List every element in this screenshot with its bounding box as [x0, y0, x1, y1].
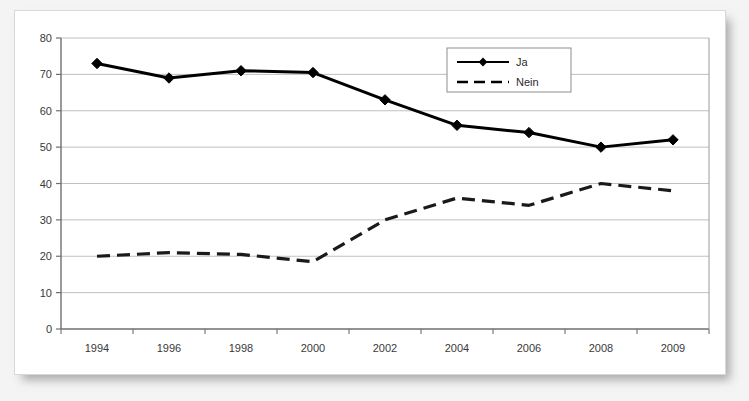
- x-axis-tick-label: 2000: [301, 342, 325, 354]
- x-axis-tick-label: 2006: [517, 342, 541, 354]
- line-chart: 01020304050607080 1994199619982000200220…: [15, 11, 727, 376]
- y-axis-tick-label: 80: [40, 32, 52, 44]
- x-axis-labels: 199419961998200020022004200620082009: [85, 342, 685, 354]
- legend-label-ja: Ja: [516, 56, 529, 68]
- x-axis-tick-label: 1998: [229, 342, 253, 354]
- x-axis-tick-label: 2008: [589, 342, 613, 354]
- y-axis-tick-label: 60: [40, 105, 52, 117]
- x-axis-tick-label: 2004: [445, 342, 469, 354]
- y-axis-tick-label: 30: [40, 214, 52, 226]
- legend-box: [447, 48, 571, 92]
- y-axis-tick-label: 20: [40, 250, 52, 262]
- chart-legend: JaNein: [447, 48, 571, 92]
- y-axis-ticks: 01020304050607080: [40, 32, 61, 335]
- x-axis-tick-label: 1996: [157, 342, 181, 354]
- y-axis-tick-label: 40: [40, 178, 52, 190]
- y-axis-tick-label: 50: [40, 141, 52, 153]
- y-axis-tick-label: 0: [46, 323, 52, 335]
- x-axis-tick-label: 2002: [373, 342, 397, 354]
- y-axis-tick-label: 70: [40, 68, 52, 80]
- chart-card: 01020304050607080 1994199619982000200220…: [14, 10, 726, 375]
- x-axis-ticks: [61, 329, 709, 334]
- chart-screenshot: 01020304050607080 1994199619982000200220…: [0, 0, 749, 401]
- x-axis-tick-label: 2009: [661, 342, 685, 354]
- x-axis-tick-label: 1994: [85, 342, 109, 354]
- legend-label-nein: Nein: [516, 76, 539, 88]
- y-axis-tick-label: 10: [40, 287, 52, 299]
